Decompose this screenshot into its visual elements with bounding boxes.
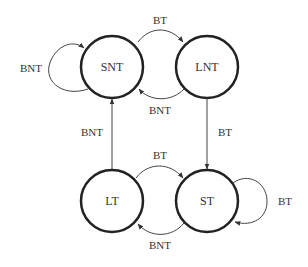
state-snt: SNT: [81, 36, 143, 98]
transition-label: BT: [153, 149, 167, 161]
transition-label: BNT: [20, 62, 42, 74]
transition-label: BT: [218, 126, 232, 138]
state-lnt: LNT: [176, 36, 238, 98]
transition-lnt-st: BT: [207, 98, 232, 169]
transition-lt-st: BT: [136, 149, 183, 178]
transition-lt-snt: BNT: [81, 99, 112, 169]
state-st-label: ST: [200, 194, 215, 208]
state-lt: LT: [81, 170, 143, 232]
diagram-svg: SNT LNT LT ST BNT BT BNT BT BNT BT: [0, 0, 308, 267]
transition-st-lt: BNT: [138, 223, 184, 251]
transition-lnt-snt: BNT: [139, 89, 184, 116]
transition-label: BNT: [149, 239, 171, 251]
transition-label: BNT: [81, 126, 103, 138]
state-lnt-label: LNT: [195, 60, 219, 74]
transition-label: BT: [278, 195, 292, 207]
state-st: ST: [176, 170, 238, 232]
state-diagram: SNT LNT LT ST BNT BT BNT BT BNT BT: [0, 0, 308, 267]
transition-label: BNT: [149, 104, 171, 116]
transition-st-self: BT: [233, 178, 292, 223]
transition-label: BT: [153, 14, 167, 26]
state-snt-label: SNT: [101, 60, 124, 74]
transition-snt-lnt: BT: [138, 14, 183, 42]
state-lt-label: LT: [105, 194, 119, 208]
transition-snt-self: BNT: [20, 44, 88, 91]
